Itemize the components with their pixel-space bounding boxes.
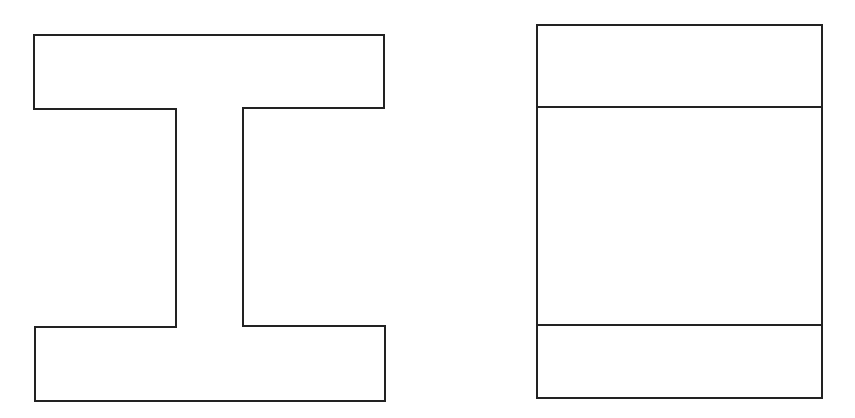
divided-rectangle — [537, 25, 822, 398]
i-beam-section — [34, 35, 385, 401]
diagram-canvas — [0, 0, 855, 418]
